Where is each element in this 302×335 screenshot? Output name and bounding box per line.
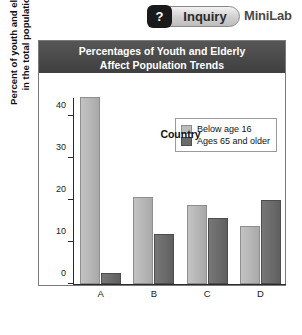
question-mark-icon: ? xyxy=(147,5,172,28)
bar xyxy=(187,205,207,284)
minilab-label: MiniLab xyxy=(244,8,292,23)
bar xyxy=(80,97,100,284)
x-tick-label: A xyxy=(74,288,127,299)
y-axis-label-line1: Percent of youth and elderly xyxy=(8,0,20,116)
y-tick-label: 30 xyxy=(48,142,66,152)
chart-title: Percentages of Youth and Elderly Affect … xyxy=(39,41,285,73)
bar-group: B xyxy=(127,98,180,284)
bar-group: A xyxy=(74,98,127,284)
x-axis-label: Country xyxy=(74,128,287,140)
x-tick-label: C xyxy=(181,288,234,299)
chart-title-line2: Affect Population Trends xyxy=(39,58,285,72)
bar xyxy=(154,234,174,284)
x-tick-label: B xyxy=(127,288,180,299)
x-tick-label: D xyxy=(234,288,287,299)
inquiry-label: Inquiry xyxy=(176,7,234,26)
minilab-header: ? Inquiry MiniLab xyxy=(0,0,302,32)
y-axis-label: Percent of youth and elderly in the tota… xyxy=(8,0,32,116)
y-tick-label: 40 xyxy=(48,100,66,110)
bar xyxy=(208,218,228,284)
chart-figure: Percentages of Youth and Elderly Affect … xyxy=(38,40,286,286)
y-tick-label: 20 xyxy=(48,184,66,194)
y-tick-label: 0 xyxy=(48,268,66,278)
bar xyxy=(101,273,121,284)
y-tick-label: 10 xyxy=(48,226,66,236)
chart-title-line1: Percentages of Youth and Elderly xyxy=(39,44,285,58)
bar xyxy=(261,200,281,284)
bar xyxy=(133,197,153,284)
bar xyxy=(240,226,260,284)
y-axis-label-line2: in the total population xyxy=(20,0,32,116)
plot-area: Percent of youth and elderly in the tota… xyxy=(73,98,286,285)
